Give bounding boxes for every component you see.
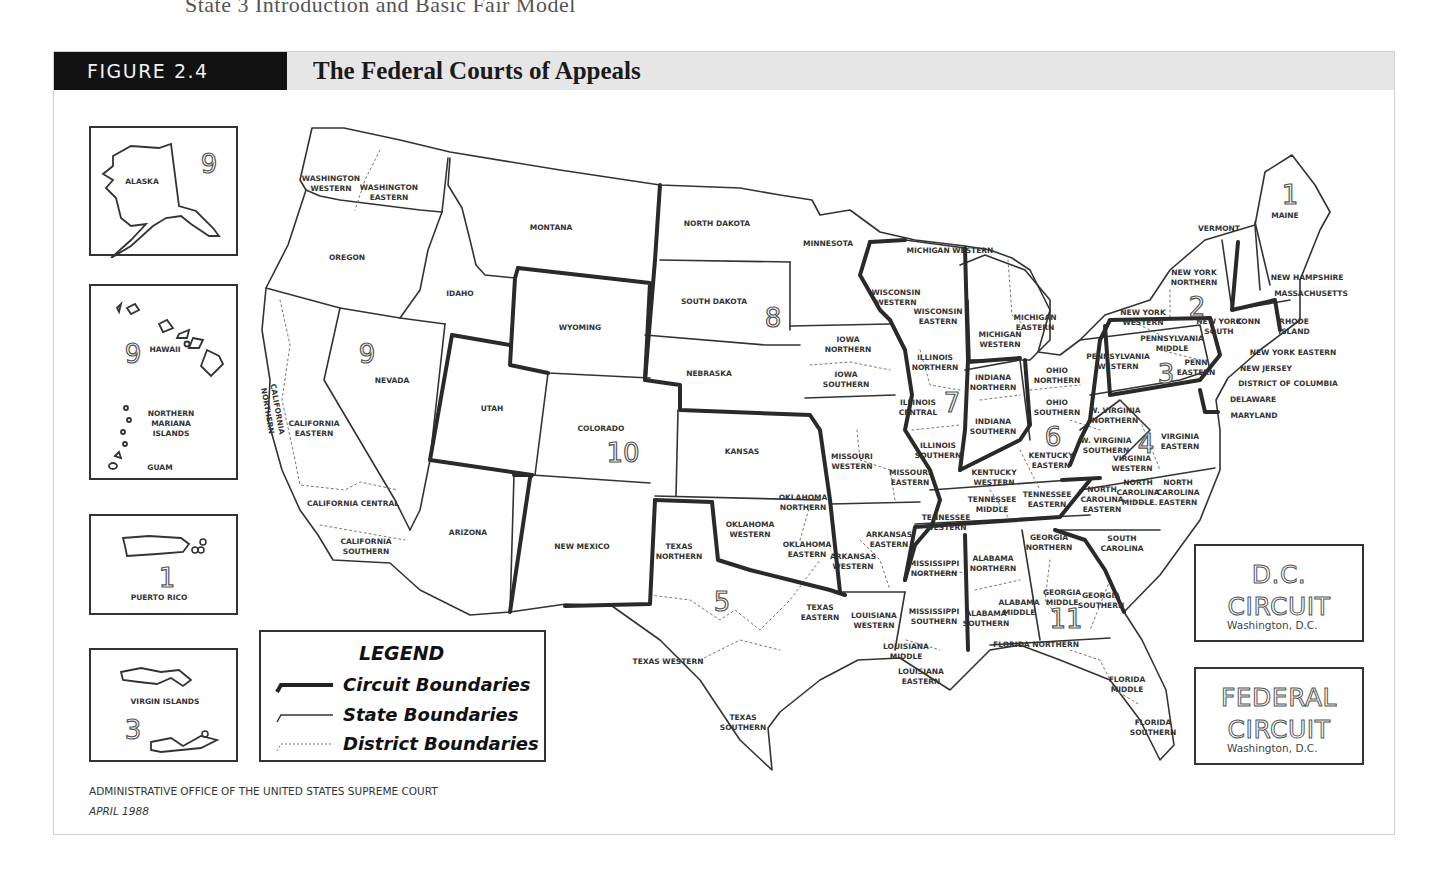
hawaii-islands-icon [91, 286, 240, 482]
districts-label: OKLAHOMA NORTHERN [779, 493, 828, 513]
districts-label: MAINE [1271, 211, 1298, 221]
districts-label: TEXAS WESTERN [633, 657, 704, 667]
districts-label: ARIZONA [449, 528, 487, 538]
districts-label: CALIFORNIA CENTRAL [307, 499, 399, 509]
districts-label: LOUISIANA WESTERN [851, 611, 897, 631]
districts-label: IDAHO [446, 289, 473, 299]
callouts-label: DISTRICT OF COLUMBIA [1238, 379, 1338, 389]
districts-label: ILLINOIS NORTHERN [912, 353, 959, 373]
districts-label: W. VIRGINIA NORTHERN [1089, 406, 1140, 426]
federal-circuit-box: FEDERAL CIRCUIT Washington, D.C. [1194, 667, 1364, 765]
legend-title: LEGEND [359, 642, 444, 664]
circuit-number: 1 [1282, 182, 1299, 208]
districts-label: OHIO SOUTHERN [1034, 398, 1080, 418]
legend-item-state: State Boundaries [275, 704, 535, 732]
districts-label: IOWA SOUTHERN [823, 370, 869, 390]
federal-circuit-line1: FEDERAL [1196, 683, 1362, 712]
alaska-shape-icon [91, 128, 240, 258]
districts-label: ILLINOIS SOUTHERN [915, 441, 961, 461]
districts-label: KANSAS [725, 447, 760, 457]
dc-circuit-location: Washington, D.C. [1227, 619, 1317, 631]
state-line-icon [275, 708, 335, 724]
districts-label: PENNSYLVANIA MIDDLE [1140, 334, 1204, 354]
legend-label-district: District Boundaries [343, 733, 539, 754]
date-credit: APRIL 1988 [89, 805, 149, 817]
legend-item-circuit: Circuit Boundaries [275, 674, 535, 702]
inset-alaska: ALASKA 9 [89, 126, 238, 256]
districts-label: VERMONT [1198, 224, 1240, 234]
districts-label: ARKANSAS EASTERN [866, 530, 912, 550]
districts-label: TEXAS EASTERN [801, 603, 840, 623]
districts-label: SOUTH DAKOTA [681, 297, 747, 307]
districts-label: INDIANA SOUTHERN [970, 417, 1016, 437]
federal-circuit-line2: CIRCUIT [1196, 715, 1362, 744]
legend-label-state: State Boundaries [343, 704, 519, 725]
districts-label: NORTH DAKOTA [684, 219, 750, 229]
callouts-label: DELAWARE [1230, 395, 1276, 405]
inset-virgin-islands: VIRGIN ISLANDS 3 [89, 648, 238, 762]
puerto-rico-circuit-number: 1 [159, 565, 176, 591]
callouts-label: MASSACHUSETTS [1274, 289, 1348, 299]
circuit-number: 8 [765, 305, 782, 331]
districts-label: IOWA NORTHERN [825, 335, 872, 355]
callouts-label: MARYLAND [1230, 411, 1277, 421]
districts-label: MISSISSIPPI SOUTHERN [909, 607, 960, 627]
callouts-label: NEW YORK EASTERN [1250, 348, 1337, 358]
districts-label: TEXAS NORTHERN [656, 542, 703, 562]
districts-label: NEVADA [375, 376, 410, 386]
callouts-label: RHODE ISLAND [1278, 317, 1309, 337]
districts-label: NORTH CAROLINA EASTERN [1156, 478, 1199, 508]
map-legend: LEGEND Circuit Boundaries State Boundari… [259, 630, 546, 762]
inset-hawaii-mariana: 9 HAWAII NORTHERN MARIANA ISLANDS GUAM [89, 284, 238, 480]
districts-label: WISCONSIN WESTERN [871, 288, 920, 308]
districts-label: MICHIGAN WESTERN [978, 330, 1021, 350]
districts-label: VIRGINIA EASTERN [1161, 432, 1200, 452]
circuit-number: 3 [1158, 361, 1175, 387]
districts-label: MISSISSIPPI NORTHERN [909, 559, 960, 579]
circuit-number: 9 [359, 341, 376, 367]
callouts-label: NEW JERSEY [1240, 364, 1292, 374]
callouts-label: NEW HAMPSHIRE [1271, 273, 1344, 283]
dc-circuit-line2: CIRCUIT [1196, 592, 1362, 621]
circuit-number: 6 [1045, 424, 1062, 450]
districts-label: LOUISIANA EASTERN [898, 667, 944, 687]
mariana-label: NORTHERN MARIANA ISLANDS [148, 409, 195, 439]
districts-label: NORTH CAROLINA MIDDLE [1116, 478, 1159, 508]
virgin-islands-shape-icon [91, 650, 240, 764]
districts-label: CALIFORNIA SOUTHERN [340, 537, 391, 557]
districts-label: TENNESSEE MIDDLE [968, 495, 1017, 515]
districts-label: WASHINGTON WESTERN [302, 174, 360, 194]
circuit-number: 5 [714, 589, 731, 615]
guam-label: GUAM [147, 463, 172, 473]
districts-label: OREGON [329, 253, 365, 263]
districts-label: PENNSYLVANIA WESTERN [1086, 352, 1150, 372]
districts-label: NEW MEXICO [554, 542, 609, 552]
districts-label: CONN [1236, 317, 1260, 327]
districts-label: MISSOURI WESTERN [831, 452, 873, 472]
districts-label: WASHINGTON EASTERN [360, 183, 418, 203]
districts-label: COLORADO [578, 424, 625, 434]
virgin-islands-circuit-number: 3 [125, 717, 142, 743]
circuit-number: 2 [1189, 294, 1206, 320]
circuit-number: 7 [944, 390, 961, 416]
districts-label: ALABAMA SOUTHERN [963, 609, 1009, 629]
districts-label: ALABAMA NORTHERN [970, 554, 1017, 574]
districts-label: TENNESSEE WESTERN [922, 513, 971, 533]
puerto-rico-label: PUERTO RICO [131, 593, 188, 603]
districts-label: WISCONSIN EASTERN [913, 307, 962, 327]
districts-label: NEBRASKA [686, 369, 732, 379]
districts-label: NEW YORK WESTERN [1120, 308, 1165, 328]
circuit-number: 11 [1049, 606, 1082, 632]
districts-label: W. VIRGINIA SOUTHERN [1080, 436, 1131, 456]
virgin-islands-label: VIRGIN ISLANDS [131, 697, 200, 707]
districts-label: OHIO NORTHERN [1034, 366, 1081, 386]
districts-label: TENNESSEE EASTERN [1023, 490, 1072, 510]
circuit-number: 4 [1138, 431, 1155, 457]
hawaii-label: HAWAII [149, 345, 180, 355]
hawaii-circuit-number: 9 [125, 341, 142, 367]
federal-circuit-location: Washington, D.C. [1227, 742, 1317, 754]
legend-item-district: District Boundaries [275, 733, 535, 761]
districts-label: FLORIDA SOUTHERN [1130, 718, 1176, 738]
district-line-icon [275, 737, 335, 753]
districts-label: FLORIDA NORTHERN [993, 640, 1079, 650]
